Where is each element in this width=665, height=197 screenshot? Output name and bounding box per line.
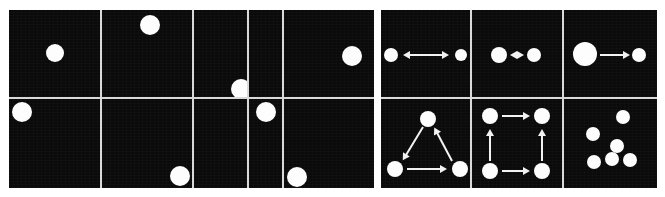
stimulus-dot <box>573 42 597 66</box>
stimulus-dot <box>623 153 637 167</box>
stimulus-dot <box>534 108 550 124</box>
arrow-shaft <box>409 54 443 56</box>
stimulus-cell-l-r1c2 <box>102 10 192 97</box>
stimulus-cell-l-r1c3 <box>194 10 247 97</box>
stimulus-dot <box>491 47 507 63</box>
stimulus-dot <box>616 110 630 124</box>
figure-canvas <box>0 0 665 197</box>
stimulus-cell-l-r2c2 <box>102 99 192 188</box>
arrowhead-right-icon <box>523 167 530 175</box>
stimulus-cell-l-r1c1 <box>9 10 100 97</box>
stimulus-cell-l-r2c4 <box>249 99 282 188</box>
stimulus-dot <box>610 139 624 153</box>
arrowhead-right-icon <box>430 125 440 135</box>
stimulus-dot <box>534 163 550 179</box>
arrow-shaft <box>489 135 491 161</box>
stimulus-dot <box>12 102 32 122</box>
stimulus-dot <box>342 46 362 66</box>
stimulus-cell-r-r1c3 <box>564 10 657 97</box>
stimulus-dot <box>420 111 436 127</box>
arrow-shaft <box>502 170 524 172</box>
stimulus-cell-l-r2c1 <box>9 99 100 188</box>
arrowhead-right-icon <box>538 129 546 136</box>
arrowhead-right-icon <box>623 51 630 59</box>
stimulus-dot <box>140 15 160 35</box>
arrowhead-right-icon <box>400 152 410 162</box>
motion-arrow-unidirectional <box>434 127 452 161</box>
stimulus-dot <box>587 155 601 169</box>
stimulus-dot <box>287 167 307 187</box>
arrowhead-right-icon <box>517 51 524 59</box>
stimulus-dot <box>586 127 600 141</box>
arrow-shaft <box>405 126 424 155</box>
stimulus-dot <box>170 166 190 186</box>
stimulus-dot <box>452 161 468 177</box>
stimulus-dot <box>455 49 467 61</box>
arrow-shaft <box>407 168 441 170</box>
arrow-shaft <box>541 135 543 161</box>
arrowhead-right-icon <box>523 112 530 120</box>
stimulus-cell-l-r1c4 <box>249 10 282 97</box>
motion-arrow-unidirectional <box>403 127 423 160</box>
arrow-shaft <box>436 132 453 162</box>
stimulus-dot <box>387 161 403 177</box>
stimulus-dot <box>46 44 64 62</box>
panel-right <box>381 10 657 188</box>
stimulus-cell-r-r1c1 <box>381 10 470 97</box>
arrowhead-left-icon <box>403 51 410 59</box>
stimulus-dot <box>527 48 541 62</box>
stimulus-cell-r-r2c3 <box>564 99 657 188</box>
stimulus-dot <box>632 48 646 62</box>
panel-left <box>9 10 374 188</box>
arrowhead-right-icon <box>440 165 447 173</box>
stimulus-cell-l-r2c5 <box>284 99 374 188</box>
stimulus-cell-r-r1c2 <box>472 10 562 97</box>
stimulus-cell-l-r2c3 <box>194 99 247 188</box>
stimulus-dot <box>256 102 276 122</box>
stimulus-cell-r-r2c1 <box>381 99 470 188</box>
stimulus-dot <box>384 48 398 62</box>
stimulus-cell-l-r1c5 <box>284 10 374 97</box>
arrowhead-right-icon <box>442 51 449 59</box>
stimulus-dot <box>605 152 619 166</box>
stimulus-cell-r-r2c2 <box>472 99 562 188</box>
stimulus-dot <box>482 108 498 124</box>
stimulus-dot <box>231 79 247 97</box>
arrow-shaft <box>600 54 624 56</box>
arrowhead-left-icon <box>510 51 517 59</box>
arrowhead-right-icon <box>486 129 494 136</box>
stimulus-dot <box>482 163 498 179</box>
arrow-shaft <box>502 115 524 117</box>
